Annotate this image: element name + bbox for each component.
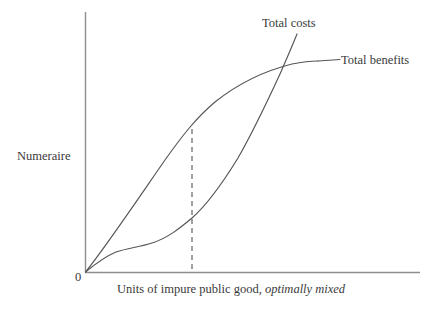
total-benefits-label: Total benefits (341, 54, 409, 67)
total-costs-label: Total costs (262, 17, 316, 30)
total-benefits-leader-line (318, 60, 340, 62)
x-axis-label: Units of impure public good, optimally m… (117, 283, 345, 296)
economics-figure: Total costs Total benefits Numeraire 0 U… (0, 0, 438, 315)
total-costs-curve (86, 34, 298, 272)
y-axis-label: Numeraire (17, 150, 70, 163)
x-axis-label-emphasis: optimally mixed (265, 282, 345, 296)
total-benefits-curve (86, 61, 319, 272)
origin-label: 0 (75, 271, 81, 284)
x-axis-label-plain: Units of impure public good, (117, 282, 265, 296)
